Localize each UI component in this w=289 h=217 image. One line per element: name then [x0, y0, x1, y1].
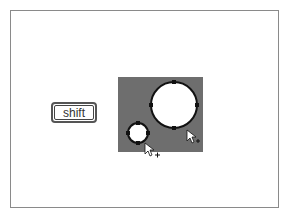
handle-right[interactable] — [195, 103, 199, 107]
handle-top[interactable] — [136, 121, 140, 125]
shapes-overlay — [0, 0, 289, 217]
large-circle[interactable] — [149, 80, 199, 130]
handle-bottom[interactable] — [136, 141, 140, 145]
handle-left[interactable] — [149, 103, 153, 107]
small-circle[interactable] — [126, 121, 150, 145]
handle-top[interactable] — [172, 80, 176, 84]
handle-right[interactable] — [146, 131, 150, 135]
handle-left[interactable] — [126, 131, 130, 135]
arrow-plus-cursor-icon — [145, 143, 160, 158]
handle-bottom[interactable] — [172, 126, 176, 130]
arrow-plus-cursor-icon — [187, 130, 200, 143]
